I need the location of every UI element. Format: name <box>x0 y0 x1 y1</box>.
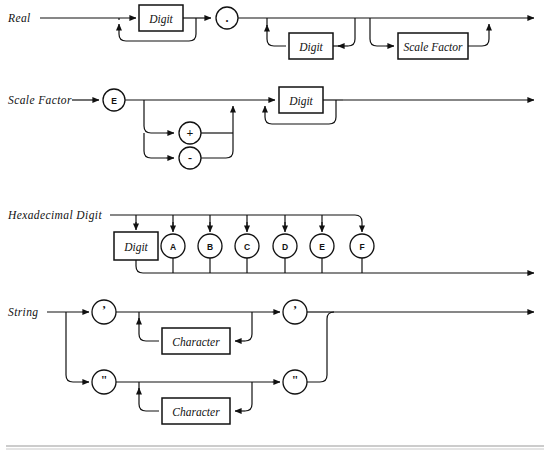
rail-string-split-down <box>66 312 82 382</box>
railroad-diagrams-canvas: Real Digit . Digit <box>0 0 550 459</box>
rail-scalefactor-enter <box>370 18 386 46</box>
lhs-label-string: String <box>8 306 39 319</box>
scale-factor-box-label: Scale Factor <box>403 41 463 53</box>
d-circle-label: D <box>282 242 288 252</box>
rail-digit2-down-from-main <box>348 18 355 46</box>
e-hex-circle-label: E <box>319 242 325 252</box>
digit-box-1-label: Digit <box>148 13 173 26</box>
rail-char2-enter-curve <box>139 394 159 411</box>
rail-hex-top <box>110 215 362 228</box>
rail-minus-exit-up <box>201 133 233 158</box>
rail-char1-enter-curve <box>139 324 159 341</box>
a-circle-label: A <box>170 242 176 252</box>
double-quote-close-label: " <box>292 373 299 387</box>
character-box-1-label: Character <box>172 336 220 348</box>
plus-circle-label: + <box>187 126 194 140</box>
diagram-scale-factor: Scale Factor E + - Digit <box>8 87 534 169</box>
lhs-label-scale-factor: Scale Factor <box>8 94 72 106</box>
lhs-label-real: Real <box>7 12 31 24</box>
diagram-string: String ’ Character ’ " <box>8 300 534 424</box>
c-circle-label: C <box>244 242 250 252</box>
digit-box-3-label: Digit <box>288 95 313 108</box>
diagram-real: Real Digit . Digit <box>7 5 534 59</box>
rail-plus-enter <box>144 100 166 133</box>
lhs-label-hexadecimal-digit: Hexadecimal Digit <box>7 209 102 222</box>
rail-digit2-enter-curve <box>267 30 286 46</box>
rail-scalefactor-exit-up <box>468 28 489 46</box>
character-box-2-label: Character <box>172 406 220 418</box>
b-circle-label: B <box>207 242 213 252</box>
single-quote-close-label: ’ <box>293 303 297 317</box>
single-quote-open-label: ’ <box>102 303 106 317</box>
rail-minus-enter <box>144 133 166 158</box>
double-quote-open-label: " <box>101 373 108 387</box>
digit-box-2-label: Digit <box>298 41 323 54</box>
digit-box-4-label: Digit <box>123 241 148 254</box>
rail-string-merge-up <box>307 312 334 382</box>
rail-char2-down-from-main <box>245 382 252 411</box>
rail-char1-down-from-main <box>245 312 252 341</box>
rail-hex-digit-merge <box>136 260 150 273</box>
syntax-diagram-page: Real Digit . Digit <box>0 0 550 459</box>
diagram-hexadecimal-digit: Hexadecimal Digit Digit A B <box>7 209 534 273</box>
e-circle-label: E <box>111 96 117 106</box>
period-circle-label: . <box>226 11 229 25</box>
minus-circle-label: - <box>188 151 192 165</box>
f-circle-label: F <box>359 242 364 252</box>
